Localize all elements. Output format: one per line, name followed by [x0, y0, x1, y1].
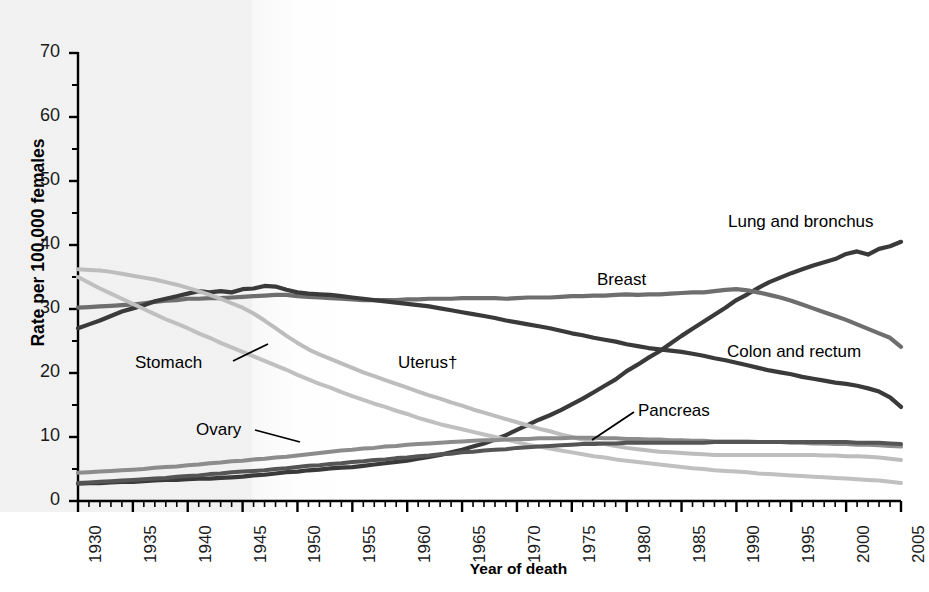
x-tick-label: 1985 [690, 525, 710, 563]
colon-label: Colon and rectum [727, 342, 861, 362]
pancreas-label: Pancreas [638, 401, 710, 421]
x-tick-label: 2005 [909, 525, 929, 563]
x-axis-title: Year of death [0, 560, 917, 578]
x-tick-label: 1995 [799, 525, 819, 563]
y-tick-label: 40 [20, 233, 60, 254]
y-tick-label: 20 [20, 361, 60, 382]
pancreas-leader-line [592, 412, 634, 440]
y-tick-label: 30 [20, 297, 60, 318]
x-tick-label: 1940 [196, 525, 216, 563]
ovary-leader-line [255, 430, 300, 442]
x-tick-label: 1965 [470, 525, 490, 563]
x-tick-label: 1970 [525, 525, 545, 563]
x-tick-label: 1955 [360, 525, 380, 563]
x-tick-label: 1990 [744, 525, 764, 563]
y-tick-label: 50 [20, 169, 60, 190]
x-tick-label: 1975 [580, 525, 600, 563]
lung-label: Lung and bronchus [728, 212, 874, 232]
series-line-stomach [78, 277, 901, 483]
y-tick-label: 0 [20, 489, 60, 510]
uterus-label: Uterus† [398, 353, 458, 373]
y-tick-label: 70 [20, 41, 60, 62]
x-tick-label: 1930 [86, 525, 106, 563]
x-tick-label: 1935 [141, 525, 161, 563]
stomach-label: Stomach [135, 353, 202, 373]
ovary-label: Ovary [196, 420, 241, 440]
x-tick-label: 1980 [635, 525, 655, 563]
breast-label: Breast [597, 270, 646, 290]
x-tick-label: 1960 [415, 525, 435, 563]
x-tick-label: 1945 [251, 525, 271, 563]
x-tick-label: 1950 [305, 525, 325, 563]
y-tick-label: 60 [20, 105, 60, 126]
y-tick-label: 10 [20, 425, 60, 446]
x-tick-label: 2000 [854, 525, 874, 563]
